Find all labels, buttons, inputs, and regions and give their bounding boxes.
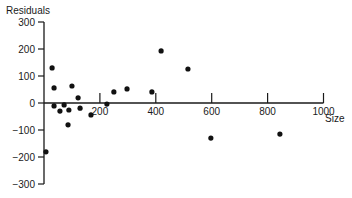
x-tick-label: 600 [203, 106, 220, 117]
data-point [124, 86, 129, 91]
axes [44, 22, 324, 184]
y-tick-label: 0 [29, 98, 35, 109]
data-point [66, 107, 71, 112]
residual-plot: 3002001000−100−200−3002004006008001000 R… [0, 0, 352, 198]
y-tick-label: −100 [12, 125, 35, 136]
data-point [69, 83, 74, 88]
data-point [88, 112, 93, 117]
y-tick-label: −200 [12, 152, 35, 163]
y-tick-label: 100 [18, 71, 35, 82]
data-point [75, 95, 80, 100]
data-point [62, 102, 67, 107]
x-tick-label: 400 [147, 106, 164, 117]
data-point [208, 136, 213, 141]
data-point [111, 89, 116, 94]
y-axis-label: Residuals [6, 5, 50, 16]
data-point [159, 48, 164, 53]
data-point [277, 131, 282, 136]
data-point [43, 149, 48, 154]
x-tick-label: 200 [92, 106, 109, 117]
data-point [149, 89, 154, 94]
data-point [65, 122, 70, 127]
data-point [185, 66, 190, 71]
y-tick-label: 200 [18, 44, 35, 55]
y-tick-label: −300 [12, 179, 35, 190]
data-points [43, 48, 282, 154]
data-point [57, 109, 62, 114]
x-tick-label: 800 [259, 106, 276, 117]
x-axis-label: Size [325, 113, 345, 124]
data-point [104, 101, 109, 106]
data-point [51, 103, 56, 108]
data-point [77, 106, 82, 111]
y-tick-label: 300 [18, 17, 35, 28]
data-point [50, 65, 55, 70]
data-point [51, 85, 56, 90]
